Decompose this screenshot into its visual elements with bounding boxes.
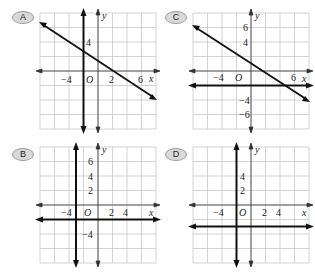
choice-a[interactable]: A y x O −4 2	[0, 0, 160, 135]
x-axis-label: x	[148, 73, 154, 84]
y-tick-6: 6	[88, 156, 93, 167]
choice-c-badge[interactable]: C	[165, 11, 187, 24]
y-tick-4: 4	[240, 171, 245, 182]
graph-c: y x O −4 6 6 4 −4 −6	[193, 13, 309, 129]
x-axis-label: x	[301, 207, 307, 218]
y-axis-label: y	[101, 10, 107, 21]
graph-a: y x O −4 2 6 4	[40, 13, 156, 129]
x-tick-2: 2	[109, 74, 114, 85]
y-axis-label: y	[254, 10, 260, 21]
graph-b: y x O −4 2 4 6 4 2 −4	[40, 147, 156, 263]
origin-label: O	[239, 207, 246, 218]
y-tick-neg4: −4	[239, 95, 250, 106]
y-tick-4: 4	[88, 171, 93, 182]
y-tick-neg6: −6	[239, 109, 250, 120]
y-tick-4: 4	[243, 37, 248, 48]
y-axis-label: y	[101, 144, 107, 155]
y-axis-label: y	[254, 144, 260, 155]
choice-c[interactable]: C y x O −4 6 6 4	[155, 0, 315, 135]
y-tick-4: 4	[86, 37, 91, 48]
x-tick-6: 6	[138, 74, 143, 85]
x-tick-neg4: −4	[61, 207, 72, 218]
origin-label: O	[235, 72, 242, 83]
origin-label: O	[86, 74, 93, 85]
x-tick-6: 6	[291, 72, 296, 83]
choice-b-badge[interactable]: B	[12, 148, 34, 161]
x-axis-label: x	[148, 207, 154, 218]
y-tick-2: 2	[240, 185, 245, 196]
choice-d-badge[interactable]: D	[165, 148, 187, 161]
origin-label: O	[84, 207, 91, 218]
y-tick-2: 2	[88, 185, 93, 196]
choice-d[interactable]: D y x O −4 2 4 4	[155, 135, 315, 277]
x-tick-2: 2	[109, 207, 114, 218]
x-tick-4: 4	[123, 207, 128, 218]
x-axis-label: x	[301, 73, 307, 84]
choice-a-badge[interactable]: A	[12, 11, 34, 24]
x-tick-4: 4	[276, 207, 281, 218]
x-tick-neg4: −4	[61, 74, 72, 85]
y-tick-neg4: −4	[82, 229, 93, 240]
choice-b[interactable]: B y x O −4 2 4 6	[0, 135, 160, 277]
x-tick-2: 2	[262, 207, 267, 218]
graph-d: y x O −4 2 4 4 2	[193, 147, 309, 263]
x-tick-neg4: −4	[213, 207, 224, 218]
y-tick-6: 6	[243, 22, 248, 33]
x-tick-neg4: −4	[213, 72, 224, 83]
